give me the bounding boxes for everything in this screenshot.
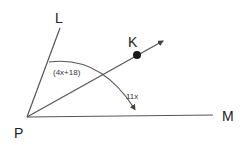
label-l: L bbox=[55, 10, 63, 26]
label-m: M bbox=[222, 108, 234, 124]
ray-pk bbox=[27, 41, 163, 117]
angle-label-lpm: 11x bbox=[126, 92, 138, 101]
geometry-diagram: L K P M (4x+18) 11x bbox=[0, 0, 243, 145]
label-p: P bbox=[14, 125, 23, 141]
point-k-dot bbox=[133, 51, 141, 59]
ray-pm bbox=[27, 115, 213, 117]
angle-label-lpk: (4x+18) bbox=[53, 68, 81, 77]
label-k: K bbox=[128, 34, 138, 50]
